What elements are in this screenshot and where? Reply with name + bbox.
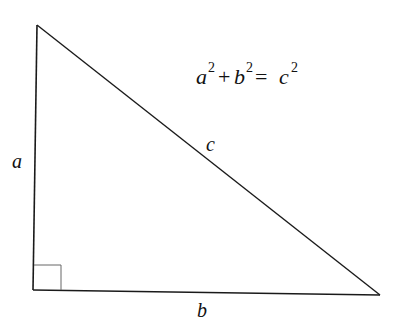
side-a-line: [33, 25, 37, 290]
eq-b: b: [234, 64, 245, 89]
triangle-diagram: a b c a 2 + b 2 = c 2: [0, 0, 394, 332]
eq-equals: =: [255, 64, 267, 89]
eq-c: c: [279, 64, 289, 89]
eq-a: a: [196, 64, 207, 89]
label-side-c: c: [206, 133, 215, 155]
side-b-line: [33, 290, 380, 295]
eq-b-exponent: 2: [246, 60, 253, 75]
pythagorean-equation: a 2 + b 2 = c 2: [196, 60, 298, 89]
eq-a-exponent: 2: [208, 60, 215, 75]
right-angle-marker: [34, 265, 61, 290]
eq-plus: +: [218, 64, 230, 89]
eq-c-exponent: 2: [291, 60, 298, 75]
label-side-b: b: [197, 299, 207, 321]
label-side-a: a: [12, 150, 22, 172]
